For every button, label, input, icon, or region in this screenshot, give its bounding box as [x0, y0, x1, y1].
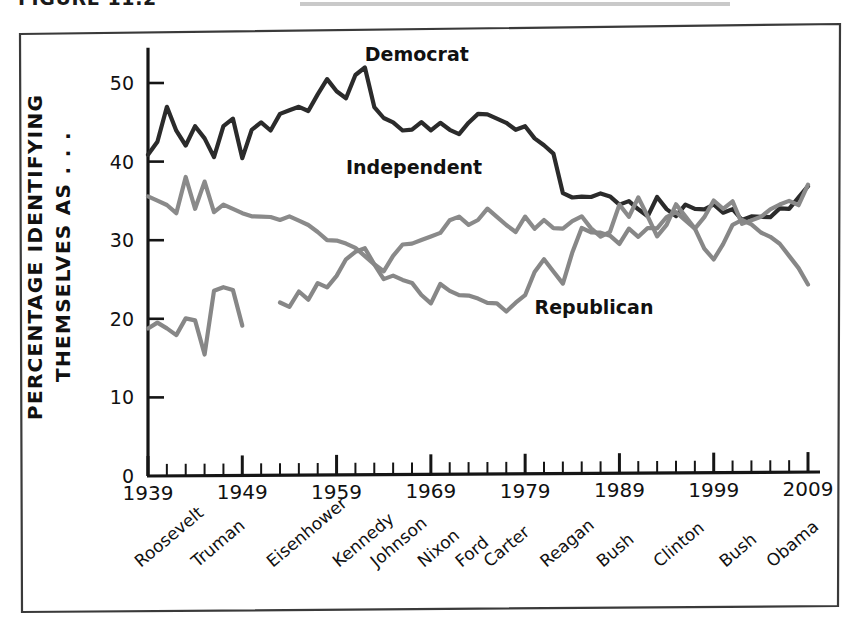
y-tick-label: 50 — [110, 72, 134, 94]
president-label: Reagan — [536, 515, 598, 571]
y-axis-label-line1: PERCENTAGE IDENTIFYING — [23, 94, 47, 420]
x-tick-label: 1969 — [405, 479, 456, 503]
series-line-republican-seg1 — [148, 287, 242, 354]
y-tick-label: 10 — [110, 386, 134, 408]
y-tick-label: 20 — [110, 308, 134, 330]
line-chart: PERCENTAGE IDENTIFYING THEMSELVES AS . .… — [0, 0, 859, 627]
series-line-democrat — [148, 68, 808, 221]
president-label: Obama — [762, 516, 822, 571]
series-annotation-democrat: Democrat — [365, 43, 469, 65]
chart-series — [148, 68, 808, 355]
y-tick-label: 40 — [110, 151, 134, 173]
x-tick-label: 1999 — [688, 478, 739, 502]
x-tick-label: 1939 — [123, 481, 174, 505]
y-axis-label: PERCENTAGE IDENTIFYING THEMSELVES AS . .… — [23, 94, 75, 420]
series-annotation-republican: Republican — [535, 296, 654, 318]
president-label: Clinton — [649, 517, 708, 571]
x-tick-label: 2009 — [783, 477, 834, 501]
president-axis-labels: RooseveltTrumanEisenhowerKennedyJohnsonN… — [131, 493, 823, 572]
x-tick-label: 1979 — [500, 479, 551, 503]
chart-axes — [147, 48, 820, 476]
y-axis-label-line2: THEMSELVES AS . . . — [51, 131, 75, 382]
president-label: Bush — [593, 529, 638, 571]
x-tick-label: 1989 — [594, 478, 645, 502]
series-annotation-independent: Independent — [346, 156, 482, 178]
president-label: Bush — [715, 529, 760, 571]
y-tick-label: 30 — [110, 229, 134, 251]
x-tick-label: 1949 — [217, 480, 268, 504]
